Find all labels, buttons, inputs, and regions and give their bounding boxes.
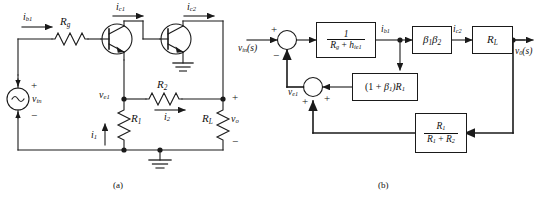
label-rg: Rg [60,16,70,29]
label-r1: R1 [131,113,141,126]
label-ib1: ib1 [23,12,32,23]
block-load-resistance: RL [472,26,513,54]
node-bottom-r1 [121,147,126,152]
sum1-minus-sign: − [273,50,279,61]
q2-collector-lead [168,26,183,34]
ac-source-sine [12,97,24,102]
forward-gain-numerator: 1 [327,29,364,39]
label-ve1: ve1 [99,90,110,101]
source-minus-sign: − [31,110,37,121]
sum1-plus-sign: + [271,24,277,35]
resistor-r2-symbol [146,93,182,105]
caption-b: (b) [378,180,389,190]
label-r2: R2 [157,79,167,92]
caption-a: (a) [113,180,123,190]
q1-collector-lead [109,26,124,34]
voltage-divider-denominator: R1 + R2 [424,133,458,145]
block-beta-product: β1β2 [412,26,452,54]
label-vin-s: vin(s) [238,44,257,54]
beta-product-expression: β1β2 [423,33,441,47]
label-ib1-bd: ib1 [381,25,390,35]
block-forward-gain: 1 Rg + hie1 [316,22,376,58]
q1-emitter-arrow [117,47,125,53]
emitter-feedback-expression: (1 + β1)R1 [365,81,405,92]
output-plus-sign: + [232,92,238,103]
bd-sum1-circle [278,31,297,50]
voltage-divider-fraction: R1 R1 + R2 [424,121,458,144]
label-ve1-bd: ve1 [288,88,298,98]
label-vo-circuit: vo [231,114,239,125]
block-emitter-feedback: (1 + β1)R1 [352,73,418,101]
label-vo-s: v0(s) [515,47,532,57]
forward-gain-fraction: 1 Rg + hie1 [327,29,364,51]
label-vin-source: vin [32,94,42,105]
forward-gain-denominator: Rg + hie1 [327,39,364,51]
sum2-plus-right-sign: + [324,93,330,104]
label-ic2: ic2 [187,2,196,13]
figure-root: ib1 Rg ic1 ic2 + vin − ve1 R2 R1 RL i1 i… [0,0,539,199]
voltage-divider-numerator: R1 [424,121,458,132]
node-ground [157,147,162,152]
block-voltage-divider: R1 R1 + R2 [415,113,467,153]
source-plus-sign: + [31,80,37,91]
resistor-rl-symbol [217,99,229,150]
node-output [220,96,225,101]
label-rl: RL [202,113,213,126]
bd-sum2-circle [304,78,323,97]
label-i2: i2 [164,112,170,123]
label-i1: i1 [91,130,97,141]
output-minus-sign: − [232,136,238,147]
q2-emitter-arrow [176,47,184,53]
label-ic1: ic1 [116,2,125,13]
label-ic2-bd: ic2 [453,25,462,35]
resistor-rg-symbol [52,33,88,45]
node-ve1 [121,96,126,101]
sum2-plus-left-sign: + [302,96,308,107]
resistor-r1-symbol [118,99,130,150]
load-resistance-expression: RL [487,33,498,47]
